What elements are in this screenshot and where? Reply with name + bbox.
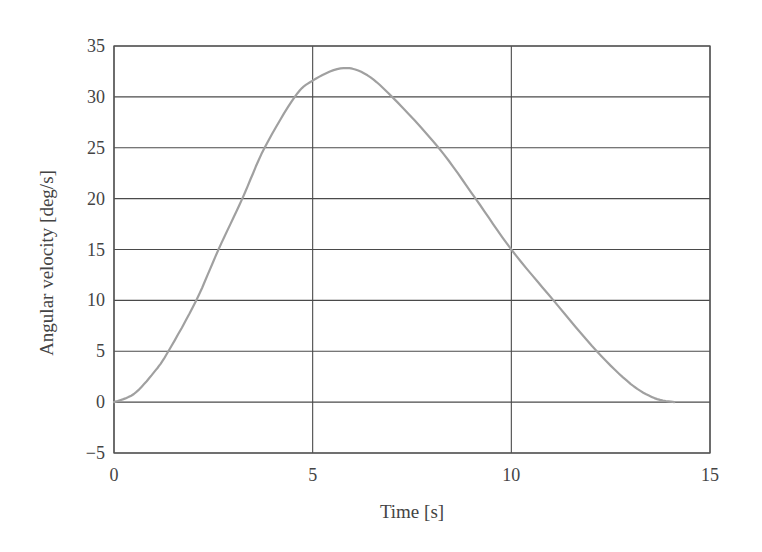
y-tick-label: 5 bbox=[96, 341, 105, 361]
y-axis-label: Angular velocity [deg/s] bbox=[36, 170, 57, 356]
angular-velocity-chart: −505101520253035 051015 Time [s] Angular… bbox=[0, 0, 762, 552]
y-tick-label: 30 bbox=[87, 87, 105, 107]
y-axis-ticks: −505101520253035 bbox=[86, 36, 105, 463]
x-axis-label: Time [s] bbox=[380, 501, 444, 522]
y-tick-label: 35 bbox=[87, 36, 105, 56]
y-tick-label: 10 bbox=[87, 290, 105, 310]
angular-velocity-line bbox=[114, 68, 674, 402]
y-tick-label: 15 bbox=[87, 240, 105, 260]
x-tick-label: 15 bbox=[701, 465, 719, 485]
x-tick-label: 5 bbox=[308, 465, 317, 485]
x-tick-label: 10 bbox=[502, 465, 520, 485]
y-tick-label: 0 bbox=[96, 392, 105, 412]
x-axis-ticks: 051015 bbox=[110, 465, 720, 485]
grid-lines bbox=[114, 46, 710, 453]
y-tick-label: 25 bbox=[87, 138, 105, 158]
x-tick-label: 0 bbox=[110, 465, 119, 485]
y-tick-label: −5 bbox=[86, 443, 105, 463]
y-tick-label: 20 bbox=[87, 189, 105, 209]
